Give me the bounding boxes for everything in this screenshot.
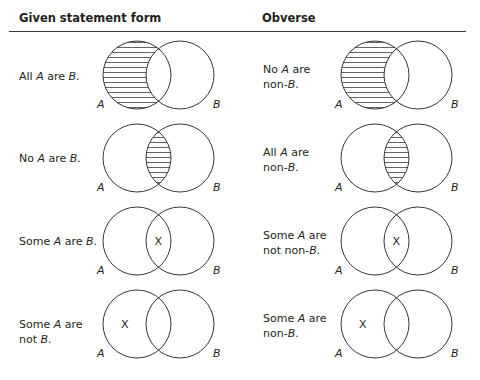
venn-diagram-given-4: ABX <box>96 290 221 360</box>
label-a: A <box>96 98 105 111</box>
label-b: B <box>451 98 459 111</box>
circle-a <box>103 290 171 358</box>
venn-diagram-obverse-1: AB <box>334 41 459 111</box>
venn-diagram-given-1: AB <box>96 41 221 111</box>
circle-a <box>341 290 409 358</box>
label-a: A <box>334 181 343 194</box>
label-a: A <box>334 98 343 111</box>
label-b: B <box>451 181 459 194</box>
venn-diagrams: ABABABABABXABXABXABX <box>0 0 480 380</box>
label-b: B <box>451 264 459 277</box>
circle-b <box>384 290 452 358</box>
venn-diagram-given-3: ABX <box>96 207 221 277</box>
label-a: A <box>334 347 343 360</box>
circle-b <box>146 290 214 358</box>
label-b: B <box>213 98 221 111</box>
label-b: B <box>451 347 459 360</box>
x-mark: X <box>155 235 163 248</box>
venn-diagram-obverse-2: AB <box>334 124 459 194</box>
label-a: A <box>96 347 105 360</box>
label-b: B <box>213 264 221 277</box>
venn-diagram-given-2: AB <box>96 124 221 194</box>
venn-diagram-obverse-4: ABX <box>334 290 459 360</box>
label-b: B <box>213 347 221 360</box>
label-a: A <box>334 264 343 277</box>
label-a: A <box>96 181 105 194</box>
label-b: B <box>213 181 221 194</box>
venn-diagram-obverse-3: ABX <box>334 207 459 277</box>
x-mark: X <box>359 318 367 331</box>
label-a: A <box>96 264 105 277</box>
x-mark: X <box>393 235 401 248</box>
x-mark: X <box>121 318 129 331</box>
